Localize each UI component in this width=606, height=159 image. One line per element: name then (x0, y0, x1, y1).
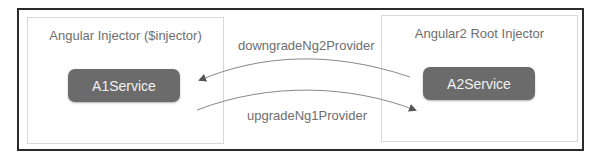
downgrade-provider-label: downgradeNg2Provider (238, 38, 375, 53)
arrows-layer (0, 0, 606, 159)
upgrade-provider-label: upgradeNg1Provider (247, 108, 367, 123)
downgrade-arrow (200, 59, 410, 80)
